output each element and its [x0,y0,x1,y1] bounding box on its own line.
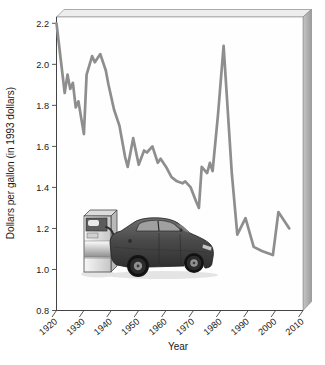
x-tick-label: 2010 [284,316,306,337]
gas-price-figure: 0.81.01.21.41.61.82.02.21920193019401950… [0,0,325,365]
x-tick [244,311,249,318]
x-tick-label: 1980 [202,316,224,337]
x-tick-label: 2000 [256,316,278,337]
car-front-hub [193,262,196,265]
x-tick [79,311,84,318]
price-chart: 0.81.01.21.41.61.82.02.21920193019401950… [0,0,325,365]
x-tick [271,311,276,318]
y-tick-label: 1.6 [36,142,49,152]
x-tick-label: 1930 [65,316,87,337]
x-tick-label: 1920 [37,316,59,337]
x-tick [134,311,139,318]
y-tick-label: 2.2 [36,19,49,29]
slab-side-face [303,10,312,311]
car-shadow [106,271,218,279]
x-tick-label: 1940 [92,316,114,337]
car-rear-hub [137,265,140,268]
y-tick-label: 2.0 [36,60,49,70]
x-tick [107,311,112,318]
y-axis-title: Dollars per gallon (in 1993 dollars) [5,87,16,239]
x-axis-title: Year [168,341,189,352]
x-tick [189,311,194,318]
pump-screen [88,220,99,226]
pump-keypad [87,233,98,238]
y-tick-label: 0.8 [36,306,49,316]
car-mirror [179,228,182,231]
x-tick-label: 1970 [174,316,196,337]
y-tick-label: 1.2 [36,224,49,234]
slab-top-face [57,10,312,18]
pump-band [84,241,110,257]
x-tick [52,311,57,318]
x-tick-label: 1950 [119,316,141,337]
x-tick-label: 1960 [147,316,169,337]
x-tick [216,311,221,318]
y-tick-label: 1.8 [36,101,49,111]
x-tick [299,311,304,318]
car-fuel-cap [128,239,132,243]
x-tick [162,311,167,318]
y-tick-label: 1.4 [36,183,49,193]
y-tick-label: 1.0 [36,265,49,275]
x-tick-label: 1990 [229,316,251,337]
